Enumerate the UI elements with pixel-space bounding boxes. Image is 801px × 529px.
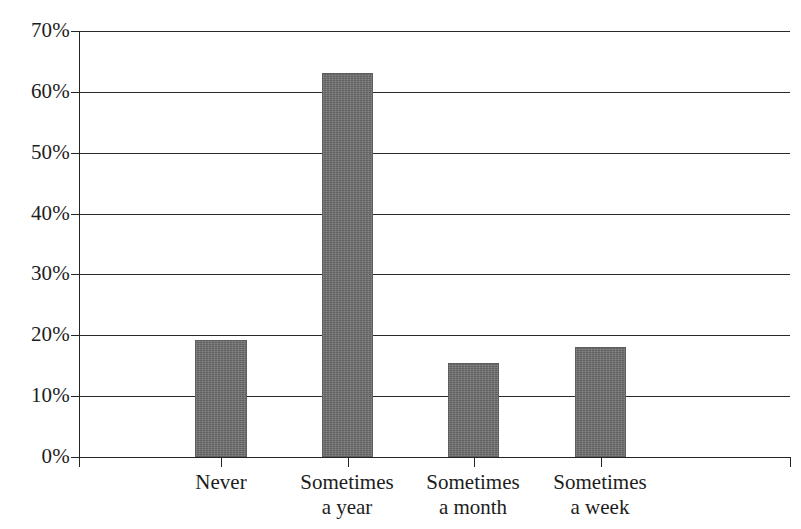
x-tick-mark [790,457,791,467]
x-tick-mark [221,457,222,467]
y-tick-label: 20% [0,324,70,345]
y-tick-label: 40% [0,203,70,224]
bar [195,340,247,457]
y-tick-label: 70% [0,20,70,41]
x-tick-mark [348,457,349,467]
bar [322,73,373,457]
y-tick-label: 0% [0,446,70,467]
bar [575,347,626,457]
bar-chart: 0%10%20%30%40%50%60%70% NeverSometimes a… [0,0,801,529]
y-tick-label: 10% [0,385,70,406]
x-tick-mark [601,457,602,467]
y-tick-label: 60% [0,81,70,102]
x-tick-mark [474,457,475,467]
plot-area [79,31,790,457]
x-tick-mark [79,457,80,467]
bar [448,363,499,457]
y-tick-label: 50% [0,142,70,163]
y-tick-label: 30% [0,263,70,284]
x-tick-label: Sometimes a week [510,470,690,520]
gridline [79,457,790,458]
